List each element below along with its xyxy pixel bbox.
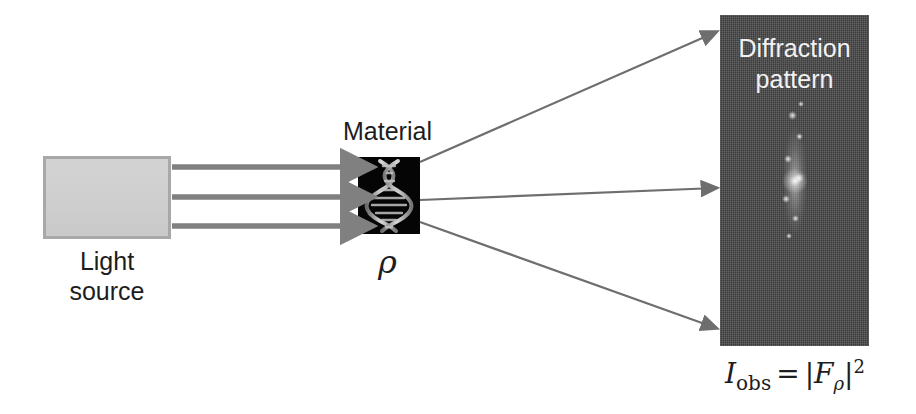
diagram-canvas: Light source Material — [0, 0, 916, 414]
diffraction-speckle — [782, 195, 790, 203]
formula-bar-close: | — [844, 357, 853, 390]
diffracted-ray-arrow-mid — [420, 188, 716, 200]
formula-subscript-obs: obs — [736, 371, 771, 395]
intensity-formula: Iobs=|Fρ|2 — [700, 356, 890, 395]
diffraction-speckle — [788, 111, 797, 120]
material-label: Material — [320, 116, 455, 146]
dna-helix-icon — [358, 157, 420, 234]
formula-equals: = — [771, 357, 804, 390]
diffraction-speckle — [796, 133, 803, 140]
formula-exponent: 2 — [854, 356, 865, 377]
material-sample-box — [358, 157, 420, 234]
detector-title: Diffraction pattern — [720, 33, 869, 95]
diffracted-ray-arrow-up — [420, 32, 716, 162]
diffraction-speckle — [786, 233, 792, 239]
diffraction-speckle — [798, 101, 804, 107]
diffracted-ray-arrows — [420, 32, 716, 328]
diffraction-speckle — [794, 173, 804, 183]
formula-symbol-I: I — [725, 357, 736, 390]
formula-bar-open: | — [805, 357, 814, 390]
incident-beam-arrows — [172, 167, 352, 226]
light-source-box — [43, 156, 171, 239]
diffracted-ray-arrow-down — [420, 222, 716, 328]
detector-panel: Diffraction pattern — [720, 15, 869, 346]
diffraction-speckle — [784, 155, 792, 163]
formula-subscript-rho: ρ — [834, 373, 845, 394]
material-density-symbol: ρ — [320, 243, 455, 281]
formula-symbol-F: F — [814, 357, 833, 390]
diffraction-speckle — [792, 215, 799, 222]
light-source-label: Light source — [43, 246, 171, 306]
